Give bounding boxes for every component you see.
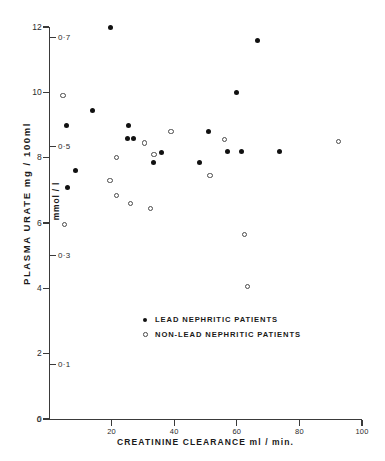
x-tick-label: 100 xyxy=(350,427,374,436)
data-point-non-lead xyxy=(222,137,227,142)
y-tick xyxy=(43,157,49,158)
data-point-lead xyxy=(255,38,260,43)
y-axis-secondary-title: mmol / l xyxy=(51,171,61,231)
legend-marker-glyph xyxy=(143,332,148,337)
y-secondary-tick xyxy=(50,255,56,256)
y-secondary-tick xyxy=(50,37,56,38)
data-point-non-lead xyxy=(207,173,212,178)
y-secondary-tick-label: 0·5 xyxy=(58,142,70,151)
x-tick-label: 20 xyxy=(100,427,124,436)
data-point-lead xyxy=(108,25,113,30)
legend-item-label: LEAD NEPHRITIC PATIENTS xyxy=(155,315,278,324)
data-point-non-lead xyxy=(60,93,65,98)
data-point-lead xyxy=(131,136,136,141)
x-tick xyxy=(236,420,237,426)
legend-item-label: NON-LEAD NEPHRITIC PATIENTS xyxy=(155,330,301,339)
x-tick-label: 40 xyxy=(162,427,186,436)
y-tick-label: 12 xyxy=(2,22,42,32)
data-point-lead xyxy=(239,149,244,154)
data-point-non-lead xyxy=(114,155,119,160)
x-tick xyxy=(111,420,112,426)
x-tick xyxy=(299,420,300,426)
y-tick xyxy=(43,288,49,289)
y-secondary-tick xyxy=(50,364,56,365)
data-point-non-lead xyxy=(114,193,119,198)
data-point-lead xyxy=(90,108,95,113)
x-axis-title: CREATININE CLEARANCE ml / min. xyxy=(49,437,362,447)
x-tick xyxy=(174,420,175,426)
data-point-lead xyxy=(277,149,282,154)
y-tick xyxy=(43,222,49,223)
data-point-lead xyxy=(197,160,202,165)
y-tick-label: 10 xyxy=(2,87,42,97)
data-point-lead xyxy=(126,123,131,128)
x-tick-label: 0 xyxy=(27,415,51,424)
data-point-lead xyxy=(234,90,239,95)
legend-item: NON-LEAD NEPHRITIC PATIENTS xyxy=(143,327,301,342)
x-axis-line xyxy=(49,419,362,420)
data-point-non-lead xyxy=(128,201,133,206)
legend-item: LEAD NEPHRITIC PATIENTS xyxy=(143,312,301,327)
y-secondary-tick xyxy=(50,146,56,147)
data-point-lead xyxy=(73,168,78,173)
y-secondary-tick-label: 0·1 xyxy=(58,360,70,369)
y-tick-label: 2 xyxy=(2,348,42,358)
x-tick-label: 60 xyxy=(225,427,249,436)
y-tick xyxy=(43,353,49,354)
data-point-lead xyxy=(65,185,70,190)
data-point-lead xyxy=(206,129,211,134)
y-secondary-tick-label: 0·7 xyxy=(58,33,70,42)
data-point-non-lead xyxy=(148,206,153,211)
data-point-non-lead xyxy=(242,232,247,237)
data-point-lead xyxy=(159,150,164,155)
y-tick xyxy=(43,26,49,27)
data-point-non-lead xyxy=(245,284,250,289)
x-tick xyxy=(361,420,362,426)
data-point-lead xyxy=(225,149,230,154)
data-point-non-lead xyxy=(151,152,156,157)
data-point-non-lead xyxy=(142,140,147,145)
x-tick-label: 80 xyxy=(287,427,311,436)
y-secondary-tick-label: 0·3 xyxy=(58,251,70,260)
data-point-lead xyxy=(64,123,69,128)
data-point-non-lead xyxy=(168,129,173,134)
data-point-lead xyxy=(151,160,156,165)
y-tick xyxy=(43,92,49,93)
open-circle-icon xyxy=(143,332,155,337)
data-point-lead xyxy=(125,136,130,141)
y-axis-title: PLASMA URATE mg / 100ml xyxy=(21,104,32,304)
legend-marker-glyph xyxy=(143,318,147,322)
data-point-non-lead xyxy=(107,178,112,183)
legend: LEAD NEPHRITIC PATIENTSNON-LEAD NEPHRITI… xyxy=(143,312,301,342)
figure-scatter-plot: 024681012 0·10·30·50·7 020406080100 PLAS… xyxy=(0,0,385,461)
data-point-non-lead xyxy=(336,139,341,144)
filled-circle-icon xyxy=(143,318,155,322)
data-point-non-lead xyxy=(62,222,67,227)
